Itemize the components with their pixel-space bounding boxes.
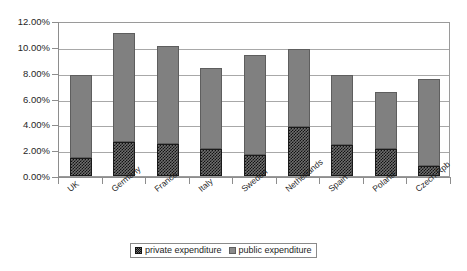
bar-segment-public — [157, 46, 179, 144]
x-axis-tick — [276, 178, 277, 184]
bar-segment-public — [418, 79, 440, 166]
x-axis-tick — [102, 178, 103, 184]
y-axis-tick — [52, 151, 58, 152]
legend-item-private: private expenditure — [135, 246, 222, 255]
x-axis-tick — [58, 178, 59, 184]
y-axis-tick — [52, 100, 58, 101]
legend-swatch-public-icon — [229, 247, 236, 254]
bar-sweden — [244, 55, 266, 176]
bar-italy — [200, 68, 222, 177]
bar-segment-private — [157, 144, 179, 176]
bar-segment-public — [244, 55, 266, 156]
x-axis-tick — [145, 178, 146, 184]
bar-segment-public — [200, 68, 222, 149]
bar-segment-public — [331, 75, 353, 145]
bar-segment-public — [70, 75, 92, 158]
y-axis-tick — [52, 48, 58, 49]
plot-area — [58, 22, 450, 177]
y-axis-tick-label: 6.00% — [0, 95, 50, 105]
bar-poland — [375, 92, 397, 176]
bar-netherlands — [288, 49, 310, 176]
legend-item-public: public expenditure — [229, 246, 312, 255]
bar-segment-public — [375, 92, 397, 149]
y-axis-tick — [52, 74, 58, 75]
bar-segment-private — [200, 149, 222, 176]
y-axis-tick-label: 0.00% — [0, 172, 50, 182]
y-axis-tick-label: 10.00% — [0, 43, 50, 53]
bar-segment-public — [113, 33, 135, 143]
bar-segment-public — [288, 49, 310, 127]
bar-germany — [113, 33, 135, 176]
bar-spain — [331, 75, 353, 176]
legend-label-public: public expenditure — [239, 246, 312, 255]
x-axis-tick — [363, 178, 364, 184]
y-axis-tick-label: 4.00% — [0, 120, 50, 130]
y-axis-tick-label: 2.00% — [0, 146, 50, 156]
chart-container: 0.00%2.00%4.00%6.00%8.00%10.00%12.00% UK… — [0, 0, 467, 271]
bar-czech-rpb — [418, 79, 440, 176]
y-axis-tick — [52, 22, 58, 23]
x-axis-tick — [189, 178, 190, 184]
x-axis-label-uk: UK — [66, 179, 81, 193]
x-axis-tick — [450, 178, 451, 184]
y-axis-tick-label: 12.00% — [0, 17, 50, 27]
y-axis-tick — [52, 125, 58, 126]
y-axis-tick-label: 8.00% — [0, 69, 50, 79]
bar-segment-private — [70, 158, 92, 176]
x-axis-tick — [319, 178, 320, 184]
x-axis-tick — [406, 178, 407, 184]
bar-france — [157, 46, 179, 176]
x-axis-tick — [232, 178, 233, 184]
legend-swatch-private-icon — [135, 247, 142, 254]
y-axis-line — [58, 22, 59, 178]
chart-legend: private expenditure public expenditure — [130, 243, 317, 258]
legend-label-private: private expenditure — [145, 246, 222, 255]
x-axis-label-italy: Italy — [197, 177, 214, 194]
bar-uk — [70, 75, 92, 176]
